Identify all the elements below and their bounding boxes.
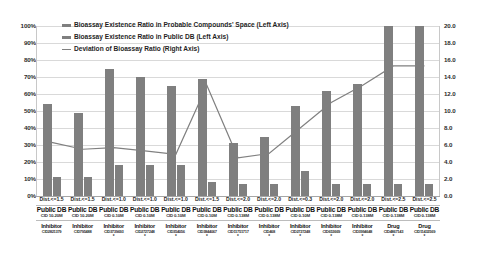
x-label-target: InhibitorCID3844067 [191, 224, 222, 234]
y-axis-right-tick: 2.0 [444, 176, 480, 182]
x-label-distance: Dist.<=2.0 [316, 196, 347, 205]
x-axis-separator [36, 220, 440, 221]
database-cid-range: CID 0-10M [191, 214, 222, 219]
x-label-database: Public DBCID 10-20M [36, 206, 67, 220]
x-label-target: DrugCID11432569 [409, 224, 440, 234]
x-label-target: InhibitorCID653669 [316, 224, 347, 234]
bioassay-ratio-chart: 0%10%20%30%40%50%60%70%80%90%100% 0.02.0… [0, 0, 482, 270]
y-axis-left-tick: 70% [2, 74, 36, 80]
legend-label: Deviation of Bioassay Ratio (Right Axis) [74, 46, 199, 53]
database-cid-range: CID 0-138M [409, 214, 440, 219]
x-label-target: InhibitorCID11751717 [222, 224, 253, 234]
bar-probable-space [105, 69, 114, 197]
chart-legend: Bioassay Existence Ratio in Probable Com… [62, 22, 289, 53]
database-cid-range: CID 10-20M [36, 214, 67, 219]
x-axis-separator [36, 205, 440, 206]
x-label-marker: * [316, 234, 347, 240]
x-label-database: Public DBCID 0-138M [378, 206, 409, 220]
database-cid-range: CID 0-138M [222, 214, 253, 219]
legend-item-deviation: Deviation of Bioassay Ratio (Right Axis) [62, 46, 289, 53]
x-label-distance: Dist.<=2.5 [409, 196, 440, 205]
database-cid-range: CID 0-138M [316, 214, 347, 219]
x-label-marker [67, 234, 98, 240]
x-label-marker: * [98, 234, 129, 240]
bar-group [347, 26, 378, 196]
bar-public-db [425, 184, 433, 196]
bar-probable-space [136, 77, 145, 196]
x-label-distance: Dist.<=0.3 [285, 196, 316, 205]
x-label-marker: * [254, 234, 285, 240]
x-label-distance: Dist.<=1.0 [129, 196, 160, 205]
x-label-marker: * [222, 234, 253, 240]
x-label-marker: * [378, 234, 409, 240]
x-label-marker: * [347, 234, 378, 240]
x-label-target: InhibitorCID468 [254, 224, 285, 234]
bar-public-db [270, 184, 278, 196]
database-cid-range: CID 0-10M [98, 214, 129, 219]
legend-item-probable-space: Bioassay Existence Ratio in Probable Com… [62, 22, 289, 29]
y-axis-left-tick: 50% [2, 108, 36, 114]
bar-public-db [208, 182, 216, 196]
y-axis-left-tick: 20% [2, 159, 36, 165]
x-label-target: InhibitorCID795488 [67, 224, 98, 234]
legend-label: Bioassay Existence Ratio in Public DB (L… [74, 34, 228, 41]
bar-group [285, 26, 316, 196]
bar-probable-space [229, 143, 238, 196]
bar-swatch-icon [62, 36, 71, 39]
bar-public-db [363, 184, 371, 196]
x-label-distance: Dist.<=2.0 [254, 196, 285, 205]
x-label-target: DrugCID4867143 [378, 224, 409, 234]
database-cid-range: CID 0-10M [285, 214, 316, 219]
y-axis-left-tick: 80% [2, 57, 36, 63]
database-cid-range: CID 0-10M [160, 214, 191, 219]
bar-probable-space [43, 104, 52, 196]
x-label-distance: Dist.<=2.5 [378, 196, 409, 205]
x-label-marker: * [160, 234, 191, 240]
database-cid-range: CID 0-138M [378, 214, 409, 219]
x-label-database: Public DBCID 0-138M [347, 206, 378, 220]
x-label-target: InhibitorCID2727248 [285, 224, 316, 234]
x-label-database: Public DBCID 0-138M [316, 206, 347, 220]
x-label-distance: Dist.<=1.0 [98, 196, 129, 205]
x-label-distance: Dist.<=2.0 [222, 196, 253, 205]
x-axis-distance-row: Dist.<=1.5Dist.<=1.5Dist.<=1.0Dist.<=1.0… [36, 196, 440, 205]
x-label-target: InhibitorCID2727248 [129, 224, 160, 234]
x-label-database: Public DBCID 0-138M [222, 206, 253, 220]
y-axis-right-tick: 10.0 [444, 108, 480, 114]
x-label-target: InhibitorCID3739693 [98, 224, 129, 234]
bar-public-db [394, 184, 402, 196]
bar-probable-space [322, 91, 331, 196]
y-axis-right-tick: 18.0 [444, 40, 480, 46]
y-axis-left-tick: 30% [2, 142, 36, 148]
x-label-distance: Dist.<=1.5 [67, 196, 98, 205]
database-cid-range: CID 0-138M [254, 214, 285, 219]
x-label-marker: * [285, 234, 316, 240]
database-cid-range: CID 10-20M [67, 214, 98, 219]
bar-probable-space [74, 113, 83, 196]
bar-public-db [332, 184, 340, 196]
bar-public-db [84, 177, 92, 196]
bar-public-db [115, 165, 123, 196]
x-label-target: InhibitorCID3994648 [347, 224, 378, 234]
database-cid-range: CID 0-138M [347, 214, 378, 219]
y-axis-right-tick: 0.0 [444, 193, 480, 199]
legend-label: Bioassay Existence Ratio in Probable Com… [74, 22, 289, 29]
bar-probable-space [198, 79, 207, 196]
x-label-database: Public DBCID 0-10M [285, 206, 316, 220]
bar-probable-space [353, 84, 362, 196]
y-axis-left-tick: 40% [2, 125, 36, 131]
y-axis-left-tick: 0% [2, 193, 36, 199]
y-axis-left-tick: 60% [2, 91, 36, 97]
bar-public-db [146, 165, 154, 196]
line-swatch-icon [62, 49, 71, 50]
y-axis-right-tick: 14.0 [444, 74, 480, 80]
database-cid-range: CID 0-10M [129, 214, 160, 219]
y-axis-right-tick: 20.0 [444, 23, 480, 29]
x-label-database: Public DBCID 0-10M [129, 206, 160, 220]
x-label-database: Public DBCID 0-10M [98, 206, 129, 220]
bar-public-db [177, 165, 185, 196]
bar-probable-space [384, 26, 393, 196]
bar-group [316, 26, 347, 196]
x-label-marker: * [191, 234, 222, 240]
bar-group [378, 26, 409, 196]
